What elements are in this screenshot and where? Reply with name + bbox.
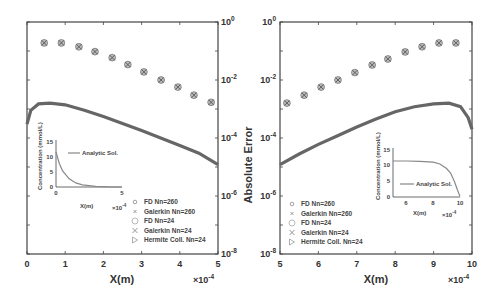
data-marker [419,43,426,50]
data-marker [402,49,409,56]
inset-legend-label: Analytic Sol. [416,181,452,187]
y-tick-label: 100 [262,15,276,27]
left-x-multiplier: ×10-4 [193,273,214,285]
left-markers [41,40,215,106]
inset-xlabel: X(m) [80,203,93,209]
legend-label: Galerkin Nn=24 [144,227,192,234]
data-marker [385,56,392,63]
legend-item: Galerkin Nn=260 [291,210,353,217]
data-marker [124,61,131,68]
legend-label: FD Nn=260 [301,200,335,207]
figure: Analytic Sol. 15 10 5 0 0 5 X(m) ×10-4 C… [0,0,500,298]
inset-xtick: 8 [431,200,435,206]
y-tick-label: 10-2 [260,73,276,85]
circle-icon [289,220,295,226]
y-tick-label: 10-6 [221,189,237,201]
right-inset-curve [393,161,460,196]
inset-ytick: 10 [46,154,53,160]
data-marker [191,92,198,99]
legend-item: Galerkin Nn=24 [133,227,192,234]
inset-x-multiplier: ×10-4 [442,210,457,218]
inset-ytick: 5 [50,169,54,175]
inset-ytick: 0 [387,194,391,200]
legend-item: Hermite Coll. Nn=24 [290,238,363,245]
data-marker [369,62,376,69]
y-tick-label: 10-6 [260,189,276,201]
legend-label: FD Nn=260 [144,198,178,205]
data-marker [174,84,181,91]
x-tick-label: 6 [316,259,321,269]
data-marker [284,100,291,107]
legend-item: FD Nn=24 [132,217,175,224]
x-tick-label: 1 [63,259,68,269]
inset-xtick: 5 [120,190,124,196]
x-tick-label: 5 [277,259,282,269]
inset-ytick: 15 [383,147,390,153]
y-tick-label: 10-4 [260,131,276,143]
data-marker [158,77,165,84]
x-tick-label: 9 [431,259,436,269]
x-icon [133,228,138,233]
x-tick-label: 5 [215,259,220,269]
small-circle-icon [133,200,137,204]
small-x-icon [291,212,294,215]
triangle-right-icon [290,239,295,245]
x-tick-label: 7 [354,259,359,269]
data-marker [109,54,116,61]
inset-xtick: 0 [54,190,58,196]
right-legend: FD Nn=260Galerkin Nn=260FD Nn=24Galerkin… [289,200,363,245]
right-x-tick-labels: 5678910 [277,259,477,269]
inset-ylabel: Concentration (mmol/L) [37,122,43,190]
right-inset: Analytic Sol. 15 10 5 0 6 8 10 X(m) ×10-… [375,132,464,218]
left-legend: FD Nn=260Galerkin Nn=260FD Nn=24Galerkin… [132,198,206,243]
left-inset-curve [56,152,122,187]
legend-label: Hermite Coll. Nn=24 [144,236,206,243]
x-icon [290,230,295,235]
legend-item: FD Nn=24 [289,219,332,226]
inset-x-multiplier: ×10-4 [112,203,127,211]
data-marker [318,84,325,91]
triangle-right-icon [133,237,138,243]
right-markers [284,40,460,107]
x-tick-label: 8 [393,259,398,269]
legend-label: Hermite Coll. Nn=24 [301,238,363,245]
legend-item: Hermite Coll. Nn=24 [133,236,206,243]
inset-ytick: 5 [387,178,391,184]
right-x-multiplier: ×10-4 [448,273,469,285]
data-marker [92,48,99,55]
left-panel: Analytic Sol. 15 10 5 0 0 5 X(m) ×10-4 C… [24,22,220,285]
y-tick-label: 10-4 [221,131,237,143]
inset-ylabel: Concentration (mmol/L) [375,132,381,200]
data-marker [301,92,308,99]
left-axis-ticks [27,22,218,254]
data-marker [58,40,65,47]
data-marker [41,40,48,47]
right-x-axis-label: X(m) [364,273,389,285]
legend-label: Galerkin Nn=24 [301,229,349,236]
x-tick-label: 0 [24,259,29,269]
right-panel: Analytic Sol. 15 10 5 0 6 8 10 X(m) ×10-… [277,22,477,285]
x-tick-label: 2 [101,259,106,269]
y-tick-label: 10-8 [260,247,276,259]
data-marker [335,77,342,84]
left-plot-frame [27,22,218,254]
legend-label: Galerkin Nn=260 [301,210,353,217]
legend-label: Galerkin Nn=260 [144,208,196,215]
y-axis-label: Absolute Error [242,126,254,204]
data-marker [208,99,215,106]
legend-item: Galerkin Nn=260 [134,208,196,215]
x-tick-label: 10 [467,259,477,269]
small-circle-icon [290,202,294,206]
left-x-axis-label: X(m) [110,273,135,285]
data-marker [452,40,459,47]
data-marker [76,43,83,50]
data-marker [436,40,443,47]
inset-legend-label: Analytic Sol. [82,150,118,156]
legend-item: Galerkin Nn=24 [290,229,349,236]
legend-item: FD Nn=260 [290,200,335,207]
inset-ytick: 10 [383,162,390,168]
circle-icon [132,218,138,224]
left-inset: Analytic Sol. 15 10 5 0 0 5 X(m) ×10-4 C… [37,122,127,211]
data-marker [351,69,358,76]
legend-label: FD Nn=24 [301,219,332,226]
